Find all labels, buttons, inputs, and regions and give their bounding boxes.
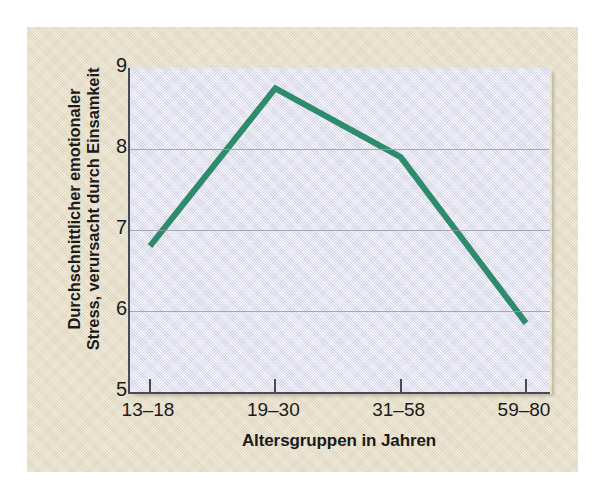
y-axis-tick-label-7: 7 (105, 216, 127, 239)
x-axis-tick-labels: 13–1819–3031–5859–80 (128, 399, 550, 425)
y-axis-title-line-1: Durchschnittlicher emotionaler (65, 89, 84, 330)
series-polyline (150, 88, 526, 323)
gridline-y-6 (130, 311, 550, 312)
y-axis-tick-label-8: 8 (105, 135, 127, 158)
x-axis-tick-1 (274, 379, 276, 392)
figure-card: Durchschnittlicher emotionaler Stress, v… (27, 27, 578, 472)
y-axis-tick-label-5: 5 (105, 378, 127, 401)
x-axis-tick-label-2: 31–58 (344, 399, 454, 421)
y-axis-tick-label-6: 6 (105, 297, 127, 320)
x-axis-tick-label-1: 19–30 (218, 399, 328, 421)
y-axis-tick-label-9: 9 (105, 54, 127, 77)
plot-area (128, 68, 550, 394)
x-axis-title: Altersgruppen in Jahren (128, 431, 550, 451)
x-axis-tick-2 (400, 379, 402, 392)
y-axis-title: Durchschnittlicher emotionaler Stress, v… (57, 39, 111, 379)
x-axis-tick-label-0: 13–18 (93, 399, 203, 421)
x-axis-tick-label-3: 59–80 (469, 399, 579, 421)
gridline-y-7 (130, 230, 550, 231)
gridline-y-8 (130, 149, 550, 150)
y-axis-tick-labels: 56789 (105, 68, 127, 433)
figure-page: Durchschnittlicher emotionaler Stress, v… (0, 0, 603, 492)
x-axis-tick-0 (149, 379, 151, 392)
x-axis-tick-3 (525, 379, 527, 392)
y-axis-title-line-2: Stress, verursacht durch Einsamkeit (84, 68, 103, 351)
